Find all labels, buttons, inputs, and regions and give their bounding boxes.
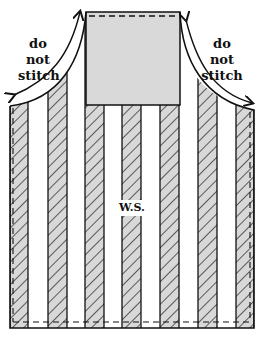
wrong-side-label: W.S.	[112, 200, 152, 216]
right-note: do not stitch	[200, 36, 244, 84]
right-note-line2: stitch	[200, 68, 244, 84]
bib-panel	[86, 12, 180, 105]
left-note-line1: do not	[18, 36, 58, 68]
left-note: do not stitch	[18, 36, 58, 84]
left-note-line2: stitch	[18, 68, 58, 84]
right-note-line1: do not	[200, 36, 244, 68]
